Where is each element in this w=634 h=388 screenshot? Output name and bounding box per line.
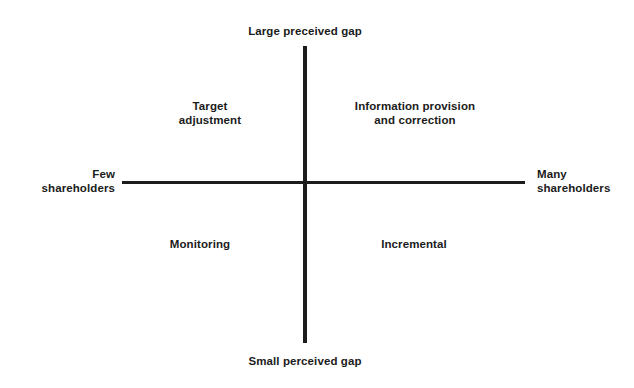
axis-label-right: Many shareholders [537, 167, 634, 195]
axis-label-bottom: Small perceived gap [185, 354, 425, 368]
quadrant-label-top-left: Target adjustment [140, 99, 280, 127]
quadrant-label-bottom-left: Monitoring [130, 237, 270, 251]
quadrant-label-top-right: Information provision and correction [330, 99, 500, 127]
quadrant-label-bottom-right: Incremental [344, 237, 484, 251]
horizontal-axis-line [122, 181, 525, 184]
axis-label-left: Few shareholders [0, 167, 115, 195]
vertical-axis-line [303, 46, 307, 343]
axis-label-top: Large preceived gap [185, 24, 425, 38]
quadrant-diagram-canvas: Large preceived gap Small perceived gap … [0, 0, 634, 388]
